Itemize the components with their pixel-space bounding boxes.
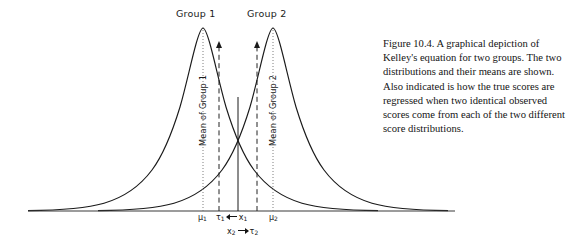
regression-left-arrow-icon — [226, 214, 238, 220]
true-score-group2-arrowhead — [254, 41, 260, 48]
tau2-regression-axis-label: x2τ2 — [227, 227, 258, 236]
mean-of-group2-label: Mean of Group 2 — [268, 75, 278, 146]
x2-subscript: 2 — [232, 229, 236, 236]
mean-of-group1-label: Mean of Group 1 — [198, 75, 208, 146]
mu1-axis-label: μ1 — [198, 213, 207, 222]
tau2-subscript: 2 — [254, 229, 258, 236]
tau1-subscript: 1 — [221, 215, 225, 222]
mu2-subscript: 2 — [274, 215, 278, 222]
figure-10-4: Group 1 Group 2 Mean of Group 1 Mean of … — [0, 0, 577, 249]
group2-title: Group 2 — [247, 8, 286, 19]
tau1-regression-axis-label: τ1x1 — [216, 213, 247, 222]
x1-subscript: 1 — [243, 215, 247, 222]
regression-right-arrow-icon — [237, 228, 249, 234]
true-score-group1-arrowhead — [216, 41, 222, 48]
group1-title: Group 1 — [176, 8, 215, 19]
mu1-subscript: 1 — [203, 215, 207, 222]
mu2-axis-label: μ2 — [269, 213, 278, 222]
figure-caption: Figure 10.4. A graphical depiction of Ke… — [383, 37, 571, 136]
